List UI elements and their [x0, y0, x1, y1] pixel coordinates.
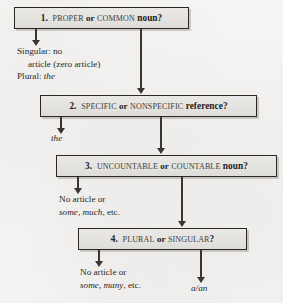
decision-box-step-4[interactable]: 4. plural or singular?: [78, 228, 247, 250]
step-1-number: 1.: [41, 13, 48, 23]
step-2-term-a: specific: [81, 99, 116, 111]
decision-box-step-4-label: 4. plural or singular?: [111, 233, 215, 244]
step-3-tail: noun?: [223, 161, 248, 171]
decision-box-step-2[interactable]: 2. specific or nonspecific reference?: [40, 95, 257, 117]
outcome-plural-line1: No article or: [80, 267, 126, 277]
step-1-term-b: common: [97, 11, 135, 23]
step-2-number: 2.: [69, 101, 76, 111]
outcome-proper-noun: Singular: no article (zero article) Plur…: [17, 45, 100, 83]
outcome-specific-reference: the: [51, 133, 62, 143]
outcome-plural-line2-tail: , etc.: [123, 280, 141, 290]
outcome-proper-noun-line2: article (zero article): [28, 59, 100, 69]
outcome-plural-noun: No article or some, many, etc.: [80, 266, 141, 291]
flowchart-page: 1. proper or common noun? Singular: no a…: [0, 0, 283, 303]
step-4-tail: ?: [210, 234, 215, 244]
step-1-tail: noun?: [137, 13, 162, 23]
step-3-term-a: uncountable: [97, 159, 158, 171]
step-4-number: 4.: [111, 234, 118, 244]
decision-box-step-3[interactable]: 3. uncountable or countable noun?: [56, 155, 277, 177]
step-3-number: 3.: [85, 161, 92, 171]
step-1-term-a: proper: [53, 11, 84, 23]
decision-box-step-1-label: 1. proper or common noun?: [41, 12, 163, 23]
decision-box-step-3-label: 3. uncountable or countable noun?: [85, 160, 248, 171]
decision-box-step-2-label: 2. specific or nonspecific reference?: [69, 100, 227, 111]
step-2-term-b: nonspecific: [130, 99, 183, 111]
outcome-proper-noun-line1: Singular: no: [17, 46, 62, 56]
step-4-term-a: plural: [123, 232, 155, 244]
outcome-uncountable-determiners: some, much: [59, 207, 102, 217]
outcome-proper-noun-line3-prefix: Plural:: [17, 71, 44, 81]
step-4-conjunction: or: [157, 234, 166, 244]
outcome-uncountable-line2-tail: , etc.: [102, 207, 120, 217]
step-1-conjunction: or: [86, 13, 95, 23]
step-4-term-b: singular: [168, 232, 210, 244]
outcome-proper-noun-line3-article: the: [44, 71, 55, 81]
step-2-tail: reference?: [186, 101, 228, 111]
step-3-conjunction: or: [160, 161, 169, 171]
step-3-term-b: countable: [171, 159, 220, 171]
outcome-plural-determiners: some, many: [80, 280, 123, 290]
outcome-singular-countable: a/an: [191, 283, 207, 293]
step-2-conjunction: or: [119, 101, 128, 111]
decision-box-step-1[interactable]: 1. proper or common noun?: [14, 7, 189, 29]
outcome-uncountable-noun: No article or some, much, etc.: [59, 193, 120, 218]
outcome-uncountable-line1: No article or: [59, 194, 105, 204]
